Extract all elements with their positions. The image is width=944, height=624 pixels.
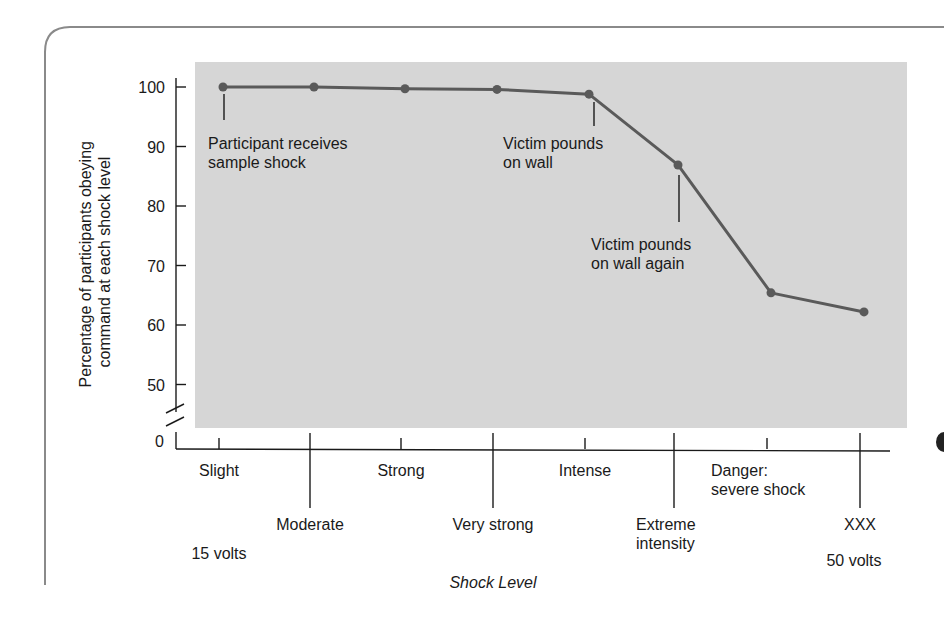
obedience-line-chart: 05060708090100 SlightModerateStrongVery … xyxy=(0,0,944,624)
y-axis-label: Percentage of participants obeying comma… xyxy=(77,137,113,388)
y-tick-label: 80 xyxy=(147,198,165,215)
data-point-marker xyxy=(219,83,228,92)
axis-break-mark xyxy=(166,404,184,413)
x-tick-label: Very strong xyxy=(453,516,534,533)
y-tick-label: 100 xyxy=(138,79,165,96)
data-point-marker xyxy=(767,288,776,297)
x-axis-label: Shock Level xyxy=(449,574,537,591)
y-tick-label: 50 xyxy=(147,377,165,394)
data-point-marker xyxy=(860,307,869,316)
data-point-marker xyxy=(585,90,594,99)
x-tick-label: Strong xyxy=(377,462,424,479)
x-axis-line xyxy=(176,449,890,451)
end-voltage-label: 50 volts xyxy=(826,552,881,569)
x-axis: SlightModerateStrongVery strongIntenseEx… xyxy=(176,433,890,552)
x-tick-label: Danger:severe shock xyxy=(711,462,806,498)
y-axis: 05060708090100 xyxy=(138,78,186,450)
x-tick-label: Extremeintensity xyxy=(636,516,696,552)
data-point-marker xyxy=(310,83,319,92)
y-tick-label: 70 xyxy=(147,258,165,275)
y-tick-label: 0 xyxy=(155,433,164,450)
x-tick-label: Moderate xyxy=(276,516,344,533)
axis-break-mark xyxy=(166,417,184,426)
x-tick-label: Intense xyxy=(559,462,612,479)
start-voltage-label: 15 volts xyxy=(191,545,246,562)
page-edge-mark xyxy=(936,432,944,452)
data-point-marker xyxy=(401,84,410,93)
y-tick-label: 90 xyxy=(147,139,165,156)
plot-panel xyxy=(195,62,907,428)
data-point-marker xyxy=(674,160,683,169)
x-tick-label: XXX xyxy=(844,516,876,533)
y-tick-label: 60 xyxy=(147,317,165,334)
x-tick-label: Slight xyxy=(199,462,240,479)
data-point-marker xyxy=(493,85,502,94)
